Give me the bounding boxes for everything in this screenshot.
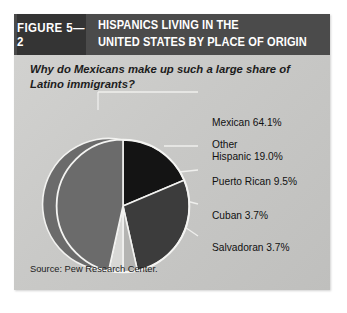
figure-subtitle: Why do Mexicans make up such a large sha… [30,62,300,91]
pie-label-other-hispanic: Other Hispanic 19.0% [212,139,283,163]
figure-number-tag: FIGURE 5—2 [17,14,86,55]
figure-source: Source: Pew Research Center. [30,264,158,274]
figure-title-line-2: UNITED STATES BY PLACE OF ORIGIN [98,34,307,51]
figure-header: FIGURE 5—2 HISPANICS LIVING IN THE UNITE… [14,14,330,55]
figure-panel: FIGURE 5—2 HISPANICS LIVING IN THE UNITE… [14,14,330,290]
pie-slice-cuban [123,206,137,272]
figure-title-line-1: HISPANICS LIVING IN THE [98,17,307,34]
pie-label-salvadoran: Salvadoran 3.7% [212,242,290,254]
leader-line-mexican [98,92,198,110]
pie-label-mexican: Mexican 64.1% [212,117,282,129]
leader-line-cuban [144,190,198,204]
pie-slice-salvadoran [109,206,123,272]
leader-line-puerto-rican [160,170,198,174]
pie-outer-rim [57,140,190,273]
leader-line-salvadoran [136,194,198,236]
pie-slice-other-hispanic [123,140,184,206]
pie-slice-mexican [43,138,123,270]
pie-slice-puerto-rican [123,180,189,270]
pie-slices [43,138,190,272]
figure-root: FIGURE 5—2 HISPANICS LIVING IN THE UNITE… [0,0,347,313]
figure-title: HISPANICS LIVING IN THE UNITED STATES BY… [89,14,330,55]
pie-label-other-hispanic-line-2: Hispanic 19.0% [212,151,283,163]
pie-label-puerto-rican: Puerto Rican 9.5% [212,176,297,188]
pie-label-cuban: Cuban 3.7% [212,210,268,222]
leader-lines [98,92,198,236]
pie-label-other-hispanic-line-1: Other [212,139,283,151]
